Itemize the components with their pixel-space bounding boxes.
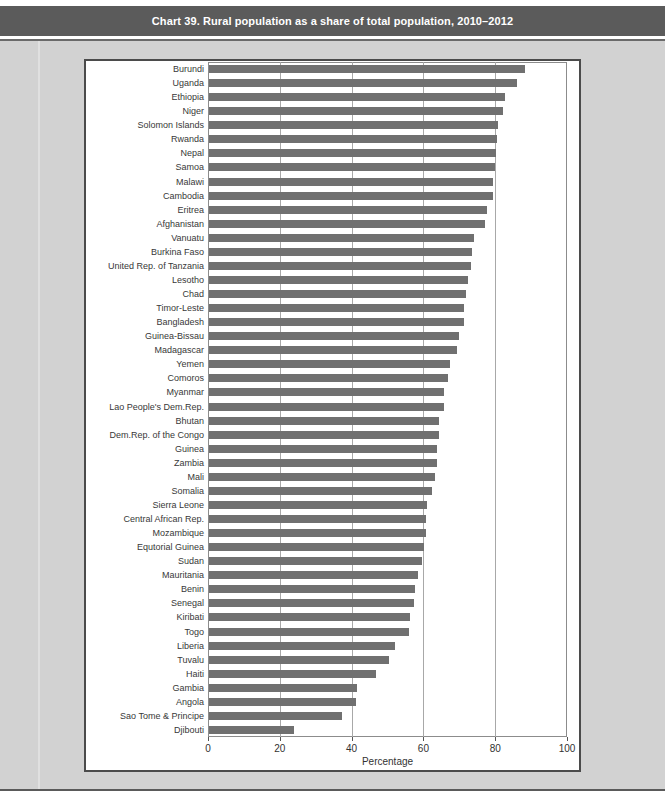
page: Chart 39. Rural population as a share of… [0,0,665,797]
chart-panel [84,59,581,772]
chart-title: Chart 39. Rural population as a share of… [152,15,513,27]
chart-title-bar: Chart 39. Rural population as a share of… [0,6,665,36]
page-bottom-rule [0,789,665,791]
page-fold-seam [38,41,40,789]
